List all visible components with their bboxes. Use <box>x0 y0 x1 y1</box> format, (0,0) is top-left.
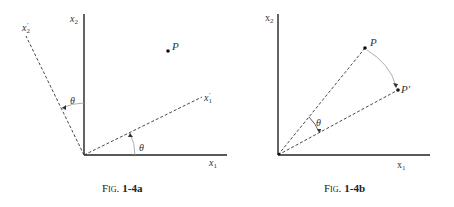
point-p-prime-label: P′ <box>400 83 411 95</box>
figure-1-4b: P P′ θ x2 x1 Fig.1-4b <box>265 12 430 194</box>
caption-fig-1-4b: Fig.1-4b <box>324 182 365 194</box>
theta-label: θ <box>316 117 321 128</box>
op-line <box>278 48 365 155</box>
x2-prime-axis <box>26 36 84 155</box>
point-p <box>166 49 170 53</box>
origin-dot <box>278 153 281 156</box>
x1-axis-label: x1 <box>397 159 406 172</box>
point-p-label: P <box>369 36 377 48</box>
point-p <box>363 46 367 50</box>
diagram-canvas: P θ θ x2 x1 x2′ x1′ Fig.1-4a P P′ θ x2 x… <box>0 0 454 207</box>
x2-axis-label: x2 <box>69 13 78 26</box>
figure-1-4a: P θ θ x2 x1 x2′ x1′ Fig.1-4a <box>21 13 227 194</box>
caption-fig-1-4a: Fig.1-4a <box>102 182 143 194</box>
point-p-prime <box>396 88 400 92</box>
rotation-arrowhead <box>393 83 398 88</box>
theta-label-lower: θ <box>139 142 144 153</box>
x1-axis-label: x1 <box>208 157 217 170</box>
op-prime-line <box>278 90 398 155</box>
x1-prime-label: x1′ <box>203 91 212 105</box>
point-p-label: P <box>171 40 179 52</box>
x2-prime-label: x2′ <box>21 21 30 35</box>
rotation-arc <box>367 50 396 86</box>
x2-axis-label: x2 <box>265 12 274 25</box>
theta-label-upper: θ <box>70 95 75 106</box>
